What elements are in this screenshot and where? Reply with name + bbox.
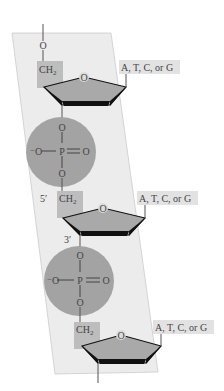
ring-oxygen-2: O [99, 203, 106, 214]
base-label-2: A, T, C, or G [139, 193, 191, 204]
phosphate-group-2: O P ⁻O O O [44, 246, 114, 316]
phosphate-1-right-oxygen: O [82, 146, 89, 157]
phosphate-1-p: P [59, 146, 65, 157]
ring-oxygen-3: O [117, 330, 124, 341]
phosphate-2-p: P [77, 275, 83, 286]
dna-backbone-diagram: O CH2 O A, T, C, or G O P ⁻O O O 5′ CH2 [0, 0, 224, 391]
phosphate-2-right-oxygen: O [102, 275, 109, 286]
base-label-1: A, T, C, or G [121, 62, 173, 73]
five-prime-label: 5′ [40, 193, 47, 204]
phosphate-2-top-oxygen: O [76, 250, 83, 261]
top-oxygen-label: O [39, 40, 46, 51]
phosphate-group-1: O P ⁻O O O [26, 117, 96, 187]
three-prime-label: 3′ [64, 234, 71, 245]
top-oxygen: O [39, 40, 46, 51]
phosphate-1-bottom-oxygen: O [58, 168, 65, 179]
phosphate-1-top-oxygen: O [58, 122, 65, 133]
phosphate-2-bottom-oxygen: O [76, 297, 83, 308]
base-label-3: A, T, C, or G [155, 322, 207, 333]
phosphate-2-left-oxygen: ⁻O [47, 275, 60, 286]
phosphate-1-left-oxygen: ⁻O [30, 146, 43, 157]
ring-oxygen-1: O [80, 72, 87, 83]
